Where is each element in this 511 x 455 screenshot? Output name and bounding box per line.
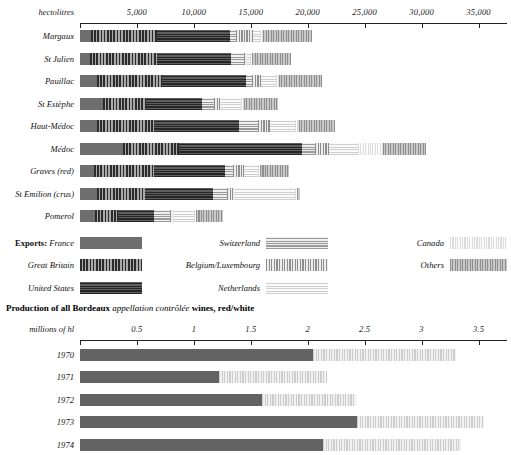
bar-segment-others <box>252 53 291 65</box>
production-row-label: 1970 <box>0 348 74 362</box>
production-row-label: 1972 <box>0 393 74 407</box>
bar-segment-canada <box>358 143 383 155</box>
export-stacked-bar <box>80 120 335 132</box>
export-row-label: St Emilion (crus) <box>0 187 74 201</box>
axis-tick <box>194 340 195 345</box>
axis-tick <box>194 23 195 28</box>
export-row-label: Haut-Médoc <box>0 119 74 133</box>
production-section-title: Production of all Bordeaux appellation c… <box>6 303 254 313</box>
axis-tick-label: 1 <box>192 324 196 334</box>
export-row: Médoc <box>0 142 511 156</box>
bar-segment-switzerland <box>213 188 227 200</box>
export-stacked-bar <box>80 98 278 110</box>
axis-tick-label: 5,000 <box>127 7 147 17</box>
bar-segment-france <box>80 75 97 87</box>
bar-segment-others <box>297 188 299 200</box>
export-stacked-bar <box>80 165 289 177</box>
bar-segment-france <box>80 30 91 42</box>
axis-tick <box>422 23 423 28</box>
export-row: Haut-Médoc <box>0 119 511 133</box>
bar-segment-netherlands <box>244 165 258 177</box>
bar-segment-belgium-luxembourg <box>214 98 221 110</box>
bar-segment-france <box>80 165 94 177</box>
bar-segment-netherlands <box>221 98 240 110</box>
bar-segment-united-states <box>179 143 302 155</box>
export-row-label: St Estèphe <box>0 97 74 111</box>
legend-swatch-canada <box>450 237 507 249</box>
bar-segment-france <box>80 143 123 155</box>
bar-segment-belgium-luxembourg <box>233 165 244 177</box>
export-stacked-bar <box>80 143 426 155</box>
export-row: St Emilion (crus) <box>0 187 511 201</box>
top-axis-line <box>80 23 507 24</box>
export-row-label: Pauillac <box>0 74 74 88</box>
bar-segment-belgium-luxembourg <box>236 30 253 42</box>
production-row: 1972 <box>0 393 511 407</box>
legend-item-canada[interactable]: Canada <box>0 236 511 250</box>
bar-segment-france <box>80 188 97 200</box>
bar-segment-france <box>80 53 90 65</box>
production-row: 1971 <box>0 370 511 384</box>
axis-tick-label: 2 <box>305 324 309 334</box>
bar-segment-united-states <box>154 120 239 132</box>
axis-tick <box>479 23 480 28</box>
production-row-label: 1974 <box>0 438 74 452</box>
bar-segment-belgium-luxembourg <box>258 120 271 132</box>
bar-segment-netherlands <box>270 120 295 132</box>
bar-segment-switzerland <box>239 120 257 132</box>
axis-tick <box>251 340 252 345</box>
production-row: 1973 <box>0 415 511 429</box>
bottom-axis <box>80 340 507 346</box>
legend-item-netherlands[interactable]: Netherlands <box>0 281 511 295</box>
axis-tick-label: 0.5 <box>131 324 142 334</box>
bar-segment-united-states <box>157 53 231 65</box>
bar-segment-belgium-luxembourg <box>252 75 261 87</box>
bar-segment-united-states <box>154 165 225 177</box>
axis-tick-label: 30,000 <box>409 7 434 17</box>
axis-tick-label: 1.5 <box>245 324 256 334</box>
bar-segment-great-britain <box>97 75 162 87</box>
production-stacked-bar <box>80 394 356 406</box>
bar-segment-belgium-luxembourg <box>315 143 330 155</box>
axis-tick <box>479 340 480 345</box>
export-stacked-bar <box>80 30 312 42</box>
production-title-after: wines, red/white <box>190 303 255 313</box>
bottom-axis-unit-label: millions of hl <box>0 324 74 334</box>
production-row: 1974 <box>0 438 511 452</box>
legend-item-others[interactable]: Others <box>0 258 511 272</box>
bar-segment-netherlands <box>329 143 357 155</box>
bar-segment-france <box>80 210 95 222</box>
bar-segment-france <box>80 120 97 132</box>
export-row-label: St Julien <box>0 52 74 66</box>
legend-item-label: Netherlands <box>218 281 260 295</box>
export-row: St Estèphe <box>0 97 511 111</box>
export-row: Margaux <box>0 29 511 43</box>
export-stacked-bar <box>80 210 223 222</box>
axis-tick-label: 2.5 <box>359 324 370 334</box>
bar-segment-red <box>80 394 262 406</box>
axis-tick <box>80 23 81 28</box>
production-row-label: 1971 <box>0 370 74 384</box>
bar-segment-united-states <box>118 210 154 222</box>
top-axis-unit-label: hectolitres <box>0 7 74 17</box>
axis-tick <box>422 340 423 345</box>
axis-tick <box>137 340 138 345</box>
production-title-before: Production of all Bordeaux <box>6 303 112 313</box>
legend-swatch-netherlands <box>266 282 328 294</box>
export-row: St Julien <box>0 52 511 66</box>
bar-segment-others <box>299 120 335 132</box>
export-row-label: Pomerol <box>0 209 74 223</box>
axis-tick-label: 3 <box>419 324 423 334</box>
bar-segment-netherlands <box>234 188 295 200</box>
export-stacked-bar <box>80 188 300 200</box>
production-stacked-bar <box>80 349 456 361</box>
axis-tick-label: 3.5 <box>473 324 484 334</box>
bar-segment-belgium-luxembourg <box>227 188 234 200</box>
export-row: Graves (red) <box>0 164 511 178</box>
bar-segment-united-states <box>145 188 213 200</box>
bar-segment-great-britain <box>97 120 154 132</box>
export-row-label: Médoc <box>0 142 74 156</box>
export-stacked-bar <box>80 75 322 87</box>
export-row: Pauillac <box>0 74 511 88</box>
bar-segment-switzerland <box>202 98 215 110</box>
